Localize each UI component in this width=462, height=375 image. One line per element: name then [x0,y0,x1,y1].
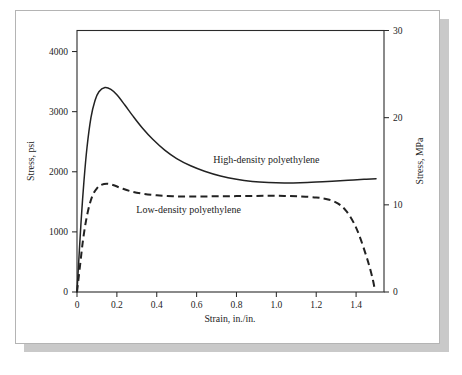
y-tick-label-right: 10 [393,200,403,210]
series-label-high-density: High-density polyethylene [213,154,320,165]
y-tick-label-left: 0 [63,287,68,297]
y-tick-label-right: 0 [393,287,398,297]
y-axis-right-ticks [384,31,389,293]
x-tick-label: 0 [75,300,80,310]
plot-area: 01000200030004000 0102030 00.20.40.60.81… [0,0,462,375]
y-axis-title-right: Stress, MPa [414,137,425,184]
x-tick-label: 0.4 [151,300,163,310]
x-tick-label: 1.4 [350,300,362,310]
x-axis-ticks [77,292,356,297]
series-low-density-polyethylene [77,184,375,292]
x-axis-labels: 00.20.40.60.81.01.21.4 [75,300,363,310]
x-tick-label: 1.0 [270,300,282,310]
series-label-low-density: Low-density polyethylene [136,204,241,215]
x-tick-label: 0.8 [231,300,243,310]
x-axis-title: Strain, in./in. [204,313,255,324]
y-axis-title-left: Stress, psi [25,141,36,181]
y-tick-label-right: 30 [393,26,403,36]
y-tick-label-left: 1000 [49,227,68,237]
figure-root: 01000200030004000 0102030 00.20.40.60.81… [0,0,462,375]
y-tick-label-left: 2000 [49,167,68,177]
x-tick-label: 0.6 [191,300,203,310]
y-tick-label-right: 20 [393,113,403,123]
y-axis-left-ticks [72,52,77,292]
y-axis-left-labels: 01000200030004000 [49,47,68,297]
y-axis-right-labels: 0102030 [393,26,403,298]
y-tick-label-left: 4000 [49,47,68,57]
x-tick-label: 0.2 [111,300,123,310]
y-tick-label-left: 3000 [49,107,68,117]
series-high-density-polyethylene [77,88,376,292]
x-tick-label: 1.2 [310,300,322,310]
stress-strain-chart[interactable]: 01000200030004000 0102030 00.20.40.60.81… [0,0,462,375]
